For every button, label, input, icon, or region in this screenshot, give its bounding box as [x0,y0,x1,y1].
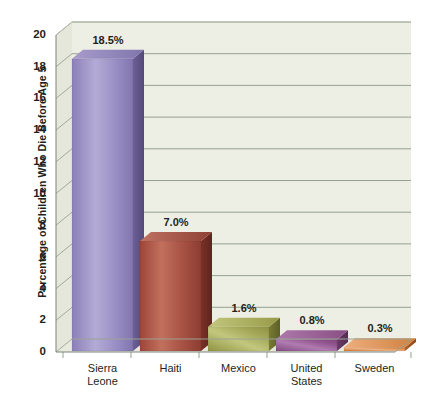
bar-top-face [72,50,144,59]
x-category-label: Sweden [332,362,417,375]
plot-area [0,0,431,404]
x-axis-ticks [63,352,411,358]
bar-value-label: 7.0% [134,216,218,228]
bar-front-face [276,339,337,351]
bar-front-face [344,347,405,351]
bar-value-label: 0.3% [338,322,422,334]
bar-chart: Percentage of Children Who Die Before Ag… [0,0,431,404]
bar-top-face [140,232,212,241]
bar-front-face [72,59,133,351]
bar-value-label: 18.5% [66,34,150,46]
bar-value-label: 1.6% [202,302,286,314]
bar-top-face [344,338,416,347]
bar-front-face [140,241,201,351]
